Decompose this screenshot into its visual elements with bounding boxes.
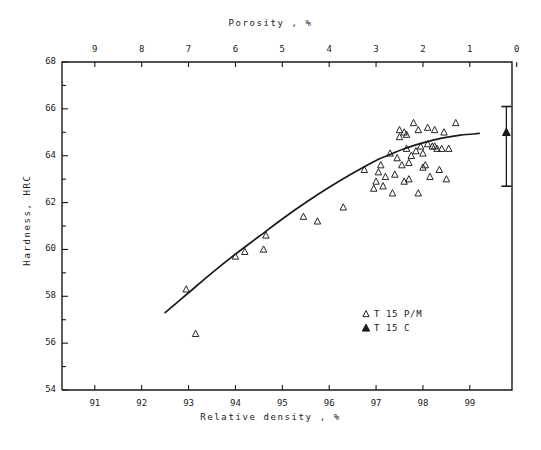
x-tick-label-92: 92 <box>122 398 162 408</box>
data-point-t15-pm <box>443 176 449 182</box>
top-x-tick-label-0: 0 <box>497 44 537 54</box>
data-point-t15-pm <box>373 178 379 184</box>
data-point-t15-pm <box>436 166 442 172</box>
data-points <box>183 119 510 336</box>
data-point-t15-pm <box>394 155 400 161</box>
data-point-t15-pm <box>260 246 266 252</box>
y-tick-label-56: 56 <box>34 337 56 347</box>
legend-item-t15-c: T 15 C <box>374 323 410 333</box>
data-point-t15-pm <box>389 190 395 196</box>
data-point-t15-pm <box>370 185 376 191</box>
error-bar <box>501 107 511 187</box>
data-point-t15-pm <box>427 173 433 179</box>
top-x-tick-label-6: 6 <box>215 44 255 54</box>
top-x-tick-label-8: 8 <box>122 44 162 54</box>
data-point-t15-pm <box>380 183 386 189</box>
data-point-t15-pm <box>392 171 398 177</box>
data-point-t15-pm <box>340 204 346 210</box>
axis-ticks <box>62 62 517 390</box>
x-tick-label-99: 99 <box>450 398 490 408</box>
plot-area <box>0 0 541 450</box>
top-x-tick-label-4: 4 <box>309 44 349 54</box>
x-tick-label-97: 97 <box>356 398 396 408</box>
legend-marker-filled-triangle <box>362 324 369 331</box>
top-x-tick-label-7: 7 <box>169 44 209 54</box>
data-point-t15-pm <box>441 129 447 135</box>
x-tick-label-91: 91 <box>75 398 115 408</box>
legend-item-t15-pm: T 15 P/M <box>374 309 422 319</box>
top-x-tick-label-3: 3 <box>356 44 396 54</box>
data-point-t15-pm <box>375 169 381 175</box>
trend-curve <box>165 133 479 312</box>
top-x-tick-label-9: 9 <box>75 44 115 54</box>
x-tick-label-98: 98 <box>403 398 443 408</box>
data-point-t15-pm <box>453 119 459 125</box>
data-point-t15-pm <box>420 150 426 156</box>
data-point-t15-pm <box>406 176 412 182</box>
data-point-t15-pm <box>415 190 421 196</box>
data-point-t15-pm <box>415 126 421 132</box>
x-tick-label-95: 95 <box>262 398 302 408</box>
data-point-t15-pm <box>406 159 412 165</box>
legend-markers <box>362 311 369 332</box>
y-tick-label-68: 68 <box>34 56 56 66</box>
data-point-t15-pm <box>192 330 198 336</box>
data-point-t15-pm <box>378 162 384 168</box>
y-tick-label-62: 62 <box>34 197 56 207</box>
data-point-t15-pm <box>314 218 320 224</box>
top-x-tick-label-1: 1 <box>450 44 490 54</box>
top-x-tick-label-5: 5 <box>262 44 302 54</box>
x-tick-label-93: 93 <box>169 398 209 408</box>
data-point-t15-pm <box>431 126 437 132</box>
data-point-t15-pm <box>300 213 306 219</box>
data-point-t15-pm <box>410 119 416 125</box>
y-tick-label-64: 64 <box>34 150 56 160</box>
data-point-t15-pm <box>382 173 388 179</box>
y-tick-label-54: 54 <box>34 384 56 394</box>
data-point-t15-pm <box>424 124 430 130</box>
x-tick-label-96: 96 <box>309 398 349 408</box>
data-point-t15-pm <box>399 162 405 168</box>
axes-frame <box>62 62 512 390</box>
chart-figure: Porosity , % Hardness, HRC Relative dens… <box>0 0 541 450</box>
data-point-t15-pm <box>183 286 189 292</box>
legend-marker-open-triangle <box>363 311 369 317</box>
y-tick-label-66: 66 <box>34 103 56 113</box>
y-tick-label-60: 60 <box>34 243 56 253</box>
x-tick-label-94: 94 <box>215 398 255 408</box>
top-x-tick-label-2: 2 <box>403 44 443 54</box>
data-point-t15-pm <box>396 126 402 132</box>
data-point-t15-pm <box>445 145 451 151</box>
y-tick-label-58: 58 <box>34 290 56 300</box>
data-point-t15-pm <box>438 145 444 151</box>
